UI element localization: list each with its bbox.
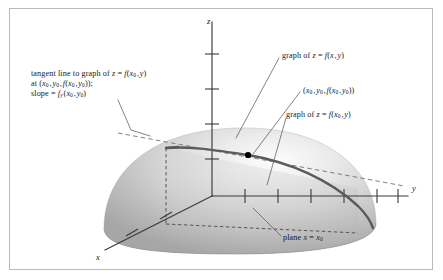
curve-left-cap [166,147,178,148]
axis-label-z: z [207,17,210,26]
figure-container: tangent line to graph of z = f(x0 , y) a… [0,0,443,280]
label-plane-x-equals-x0: plane x = x0 [283,233,323,243]
label-graph-of-f-x0-y: graph of z = f(x0 , y) [286,110,351,120]
label-tangent-line-3: slope = fy (x0 , y0) [31,89,146,99]
label-tangent-line-1: tangent line to graph of z = f(x0 , y) [31,69,146,79]
label-tangent-point-coordinates: (x0 , y0 , f(x0 , y0)) [303,86,354,96]
diagram-canvas [0,0,443,280]
label-tangent-line: tangent line to graph of z = f(x0 , y) a… [31,69,146,100]
leader-tangent-label [118,100,150,136]
axis-label-x: x [96,253,100,262]
axis-label-y: y [412,184,416,193]
label-graph-of-f-x-y: graph of z = f(x , y) [282,51,344,61]
leader-graph-full [236,58,279,138]
label-tangent-line-2: at (x0 , y0 , f(x0 , y0)); [31,79,146,89]
tangent-point-marker [245,152,251,158]
